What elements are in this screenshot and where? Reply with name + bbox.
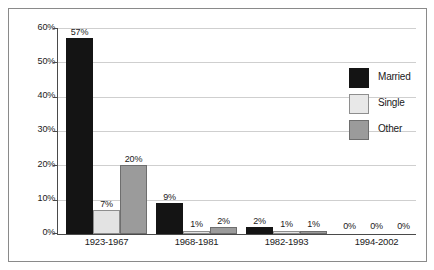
y-axis-tick-label: 50%: [15, 57, 55, 66]
bar-other-1968-1981[interactable]: [210, 227, 237, 234]
plot-area: 57% 7% 20% 1923-1967 9% 1% 2% 1968-1981 …: [57, 28, 416, 234]
bar-label-married-1968-1981: 9%: [156, 192, 183, 202]
x-axis-line: [57, 234, 416, 235]
y-axis-tick: [53, 165, 57, 166]
bar-other-1982-1993[interactable]: [300, 231, 327, 234]
bar-married-1982-1993[interactable]: [246, 227, 273, 234]
bar-label-single-1923-1967: 7%: [93, 199, 120, 209]
y-axis-labels: 60% 50% 40% 30% 20% 10% 0%: [9, 28, 55, 234]
x-axis-group-label-1982-1993: 1982-1993: [241, 236, 332, 247]
bar-married-1968-1981[interactable]: [156, 203, 183, 234]
bar-single-1968-1981[interactable]: [183, 231, 210, 234]
y-axis-tick-label: 60%: [15, 23, 55, 32]
bar-label-other-1994-2002: 0%: [390, 221, 417, 231]
y-axis-tick: [53, 200, 57, 201]
chart-figure: 60% 50% 40% 30% 20% 10% 0% 57% 7% 20% 19…: [8, 8, 427, 262]
y-axis-tick: [53, 97, 57, 98]
chart-legend: Married Single Other: [349, 66, 434, 144]
bar-label-married-1923-1967: 57%: [66, 27, 93, 37]
legend-label-other: Other: [378, 123, 402, 135]
bar-married-1923-1967[interactable]: [66, 38, 93, 234]
x-axis-group-label-1994-2002: 1994-2002: [331, 236, 422, 247]
bar-label-other-1982-1993: 1%: [300, 219, 327, 229]
bar-label-married-1994-2002: 0%: [336, 221, 363, 231]
y-axis-tick: [53, 131, 57, 132]
x-axis-group-label-1968-1981: 1968-1981: [151, 236, 242, 247]
bar-label-other-1923-1967: 20%: [120, 154, 147, 164]
y-axis-line: [57, 28, 58, 234]
y-axis-tick: [53, 28, 57, 29]
legend-label-married: Married: [378, 71, 411, 83]
legend-item-single[interactable]: Single: [349, 92, 434, 118]
legend-swatch-married-icon: [349, 68, 369, 88]
legend-item-married[interactable]: Married: [349, 66, 434, 92]
x-axis-group-label-1923-1967: 1923-1967: [61, 236, 152, 247]
bar-other-1923-1967[interactable]: [120, 165, 147, 234]
gridline: [58, 62, 416, 63]
y-axis-tick-label: 20%: [15, 160, 55, 169]
bar-label-other-1968-1981: 2%: [210, 216, 237, 226]
y-axis-tick-label: 40%: [15, 91, 55, 100]
bar-single-1923-1967[interactable]: [93, 210, 120, 234]
y-axis-tick-label: 10%: [15, 194, 55, 203]
legend-swatch-single-icon: [349, 94, 369, 114]
bar-label-single-1994-2002: 0%: [363, 221, 390, 231]
bar-single-1982-1993[interactable]: [273, 231, 300, 234]
legend-label-single: Single: [378, 97, 405, 109]
legend-item-other[interactable]: Other: [349, 118, 434, 144]
bar-label-single-1982-1993: 1%: [273, 219, 300, 229]
y-axis-tick-label: 0%: [15, 228, 55, 237]
gridline: [58, 28, 416, 29]
legend-swatch-other-icon: [349, 120, 369, 140]
gridline: [58, 165, 416, 166]
y-axis-tick: [53, 62, 57, 63]
bar-label-single-1968-1981: 1%: [183, 219, 210, 229]
y-axis-tick-label: 30%: [15, 125, 55, 134]
bar-label-married-1982-1993: 2%: [246, 216, 273, 226]
